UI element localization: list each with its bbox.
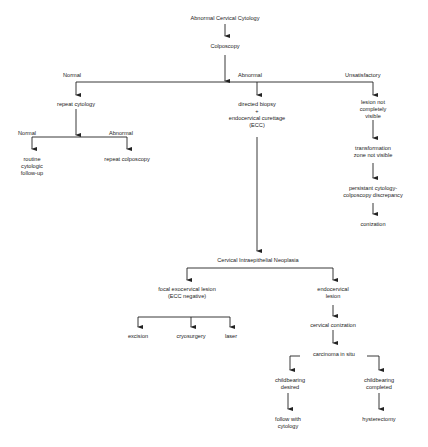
text-line: childbearing [364, 377, 394, 384]
text-line: colposcopy discrepancy [343, 192, 402, 199]
text-line: (ECC) [229, 122, 285, 129]
node-cin: Cervical Intraepithelial Neoplasia [217, 257, 298, 264]
edge-label-unsatisfactory: Unsatisfactory [345, 72, 380, 79]
text-line: routine [21, 156, 43, 163]
text-line: follow with [275, 416, 301, 423]
text-line: (ECC negative) [158, 293, 216, 300]
node-transformation-zone: transformation zone not visible [354, 145, 393, 159]
node-cytology-colposcopy-discrepancy: persistant cytology- colposcopy discrepa… [343, 185, 402, 199]
edge-label-abnormal-2: Abnormal [109, 130, 133, 137]
text-line: persistant cytology- [343, 185, 402, 192]
text-line: lesion [317, 293, 348, 300]
text-line: completely [360, 106, 387, 113]
text-line: zone not visible [354, 152, 393, 159]
node-lesion-not-visible: lesion not completely visible [360, 99, 387, 120]
node-childbearing-completed: childbearing completed [364, 377, 394, 391]
text-line: + [229, 108, 285, 115]
text-line: cytology [275, 423, 301, 430]
node-repeat-colposcopy: repeat colposcopy [104, 156, 149, 163]
node-carcinoma-in-situ: carcinoma in situ [313, 351, 355, 358]
text-line: visible [360, 113, 387, 120]
text-line: desired [275, 384, 305, 391]
node-directed-biopsy-ecc: directed biopsy + endocervical curettage… [229, 101, 285, 129]
node-hysterectomy: hysterectomy [362, 416, 395, 423]
text-line: endocervical curettage [229, 115, 285, 122]
text-line: directed biopsy [229, 101, 285, 108]
node-cervical-conization: cervical conization [310, 322, 356, 329]
node-childbearing-desired: childbearing desired [275, 377, 305, 391]
node-laser: laser [225, 333, 237, 340]
text-line: lesion not [360, 99, 387, 106]
node-endocervical-lesion: endocervical lesion [317, 286, 348, 300]
node-cryosurgery: cryosurgery [176, 333, 205, 340]
node-focal-exocervical-lesion: focal exocervical lesion (ECC negative) [158, 286, 216, 300]
text-line: endocervical [317, 286, 348, 293]
text-line: completed [364, 384, 394, 391]
node-conization: conization [360, 221, 385, 228]
node-follow-with-cytology: follow with cytology [275, 416, 301, 430]
node-repeat-cytology: repeat cytology [57, 101, 95, 108]
node-abnormal-cervical-cytology: Abnormal Cervical Cytology [190, 15, 259, 22]
edge-label-normal-2: Normal [18, 130, 36, 137]
text-line: follow-up [21, 170, 43, 177]
node-excision: excision [128, 333, 148, 340]
flowchart: Abnormal Cervical Cytology Colposcopy No… [0, 0, 428, 447]
text-line: transformation [354, 145, 393, 152]
text-line: focal exocervical lesion [158, 286, 216, 293]
edge-label-normal: Normal [63, 72, 81, 79]
node-routine-cytologic-follow-up: routine cytologic follow-up [21, 156, 43, 177]
text-line: cytologic [21, 163, 43, 170]
node-colposcopy: Colposcopy [210, 43, 239, 50]
edge-label-abnormal: Abnormal [238, 72, 262, 79]
text-line: childbearing [275, 377, 305, 384]
